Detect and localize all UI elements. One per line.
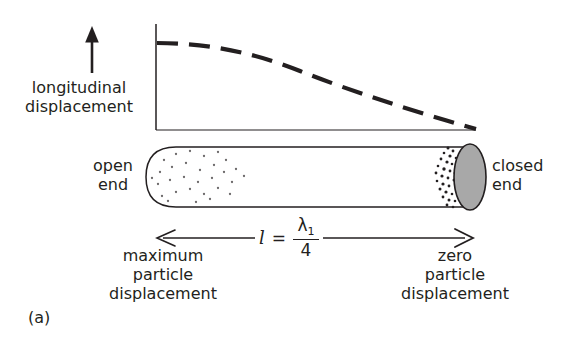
left-foot-label-maximum-particle-displacement: maximum particle displacement: [92, 246, 234, 303]
wavelength-fraction: λ1 4: [293, 217, 319, 259]
length-symbol: l: [259, 229, 265, 247]
fraction-numerator: λ1: [297, 217, 314, 238]
panel-caption: (a): [28, 308, 50, 327]
displacement-curve: [157, 43, 476, 129]
open-end-label: open end: [84, 156, 142, 194]
fraction-denominator: 4: [301, 240, 312, 259]
figure-panel-a: longitudinal displacement open end close…: [0, 0, 580, 353]
lambda-subscript: 1: [308, 226, 315, 239]
up-arrow-icon: [85, 26, 99, 73]
closed-end-label: closed end: [492, 156, 576, 194]
lambda-symbol: λ: [297, 215, 307, 235]
right-foot-label-zero-particle-displacement: zero particle displacement: [384, 246, 526, 303]
equals-sign: =: [272, 230, 286, 247]
tube-body: [146, 147, 470, 207]
length-expression: l = λ1 4: [255, 212, 323, 264]
axis-label-longitudinal-displacement: longitudinal displacement: [8, 78, 150, 116]
closed-end-cap: [454, 144, 486, 210]
